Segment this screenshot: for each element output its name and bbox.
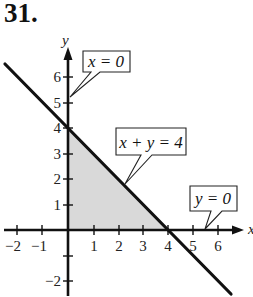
- svg-text:6: 6: [214, 238, 222, 254]
- svg-text:5: 5: [54, 95, 62, 111]
- x-axis-label: x: [247, 221, 253, 237]
- callout-x-plus-y-equals-4: x + y = 4: [116, 128, 186, 184]
- svg-text:4: 4: [164, 238, 172, 254]
- svg-text:−2: −2: [45, 273, 61, 289]
- y-axis-label: y: [60, 32, 69, 48]
- svg-text:2: 2: [54, 171, 62, 187]
- svg-text:3: 3: [54, 146, 62, 162]
- svg-text:−1: −1: [31, 238, 47, 254]
- line-x-plus-y-equals-4: [5, 64, 231, 294]
- callout-x-equals-0: x = 0: [70, 51, 130, 97]
- coordinate-plane: x y −2 −1 1 2 3 4 5 6 −2 1 2 3: [0, 0, 253, 297]
- svg-text:2: 2: [115, 238, 123, 254]
- svg-text:−2: −2: [5, 238, 21, 254]
- x-axis-arrow-icon: [232, 226, 244, 235]
- svg-text:x = 0: x = 0: [87, 52, 125, 71]
- svg-text:6: 6: [54, 69, 62, 85]
- y-axis-arrow-icon: [64, 47, 73, 60]
- svg-text:1: 1: [90, 238, 98, 254]
- svg-text:x + y = 4: x + y = 4: [118, 133, 183, 152]
- svg-text:y = 0: y = 0: [193, 189, 232, 208]
- svg-text:3: 3: [139, 238, 147, 254]
- svg-text:1: 1: [54, 197, 62, 213]
- callout-y-equals-0: y = 0: [190, 186, 237, 229]
- y-tick-labels: −2 1 2 3 4 5 6: [45, 69, 61, 289]
